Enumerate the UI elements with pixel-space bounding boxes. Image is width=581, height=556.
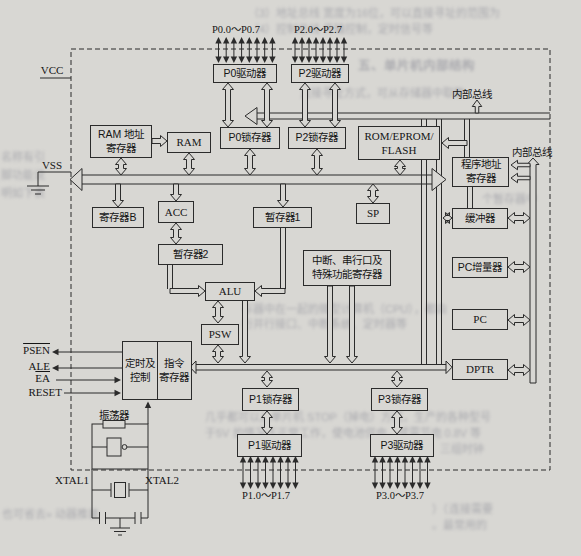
block-alu: ALU [205,282,255,301]
connector [508,315,530,326]
capacitor-icon [92,512,135,524]
port0-pin-arrows [215,37,275,63]
block-instruction-register: 指令寄存器 [158,342,192,399]
connector [392,371,403,387]
block-program-address-register: 程序地址寄存器 [452,157,509,187]
par-buffer-feed [468,187,473,208]
connector [262,83,273,127]
connector [325,286,336,363]
port2-pin-arrows [292,37,347,63]
connector [170,286,205,297]
connector [472,100,482,113]
port1-pins-label: P1.0～P1.7 [226,487,306,502]
xtal2-label: XTAL2 [136,474,188,486]
connector [113,184,124,207]
ea-arrow [56,377,121,383]
vss-label: VSS [34,159,70,171]
block-buffer: 缓冲器 [452,208,508,229]
block-timing-and-instruction: 定时及控制 指令寄存器 [122,341,192,400]
connector [368,184,379,203]
psen-arrow [52,349,122,355]
port2-pins-label: P2.0～P2.7 [278,21,358,36]
connector [223,83,234,127]
connector [213,301,224,323]
internal-bus-right-label: 内部总线 [496,144,568,159]
connector [278,184,289,207]
block-temp-register-1: 暂存器1 [253,207,312,228]
connector [262,371,273,387]
block-dptr: DPTR [452,359,508,380]
port3-pins-label: P3.0～P3.7 [360,487,440,502]
block-p1-driver: P1驱动器 [237,434,302,457]
connector [312,149,323,175]
psen-label: PSEN [10,344,50,356]
reset-label: RESET [10,386,62,398]
capacitor-icon [135,512,148,524]
temp2-alu-feed [168,265,173,289]
oscillator-label: 振荡器 [84,407,144,422]
connector [171,223,182,244]
oscillator-circuit [92,421,148,470]
lower-internal-bus [190,361,452,374]
reset-arrow [64,390,121,396]
oscillator-to-timing-arrow [145,402,151,425]
main-internal-bus [70,169,446,191]
ground-icon [110,528,130,535]
connector [347,286,358,363]
block-register-b: 寄存器B [92,207,144,228]
right-internal-bus [527,158,539,383]
block-ram: RAM [167,132,211,153]
block-p2-driver: P2驱动器 [291,64,349,83]
connector [442,138,467,149]
connector [330,83,341,127]
connector [213,345,224,363]
connector [395,160,406,175]
xtal1-label: XTAL1 [46,474,98,486]
wiring-layer [0,0,581,556]
connector [527,158,539,383]
connector [184,153,195,175]
crystal-icon [111,483,129,498]
ground-icon [27,186,49,194]
connector [443,213,452,224]
block-p3-latch: P3锁存器 [371,388,428,411]
block-pc-incrementer: PC增量器 [452,257,508,278]
temp1-alu-feed [281,228,286,289]
vcc-label: VCC [34,64,70,76]
block-ram-address-register: RAM 地址寄存器 [90,125,152,158]
block-p0-driver: P0驱动器 [213,64,277,83]
connector [392,411,403,434]
port1-pin-arrows [240,456,299,489]
connector [300,83,311,127]
block-acc: ACC [158,201,194,223]
block-p0-latch: P0锁存器 [220,127,280,149]
block-p1-latch: P1锁存器 [242,388,299,411]
ale-label: ALE [10,360,50,372]
port0-pins-label: P0.0～P0.7 [196,21,276,36]
connector [262,411,273,434]
internal-bus-top-label: 内部总线 [432,86,512,101]
connector [240,300,251,363]
connector [508,365,530,376]
block-interrupt-serial-sfr: 中断、串行口及特殊功能寄存器 [303,250,391,286]
ale-arrow [52,365,122,371]
connector [116,158,127,175]
block-p3-driver: P3驱动器 [370,434,434,457]
vss-wire [38,172,71,186]
port3-pin-arrows [372,456,431,489]
connector [152,136,167,147]
block-pc: PC [452,309,508,330]
connector [171,184,182,201]
par-top-feed [465,119,470,157]
block-psw: PSW [201,324,239,345]
block-timing-control: 定时及控制 [123,342,158,399]
ea-label: EA [10,372,50,384]
block-sp: SP [356,203,390,224]
top-internal-bus [245,108,550,125]
block-p2-latch: P2锁存器 [288,127,346,149]
scanned-page: （3）地址总线 宽度为16位，可以直接寻址的范围为 （4）控制总线 传输控制，定… [0,0,581,556]
connector [511,173,530,183]
connector [508,213,530,224]
block-temp-register-2: 暂存器2 [158,244,223,265]
connector [508,262,530,273]
